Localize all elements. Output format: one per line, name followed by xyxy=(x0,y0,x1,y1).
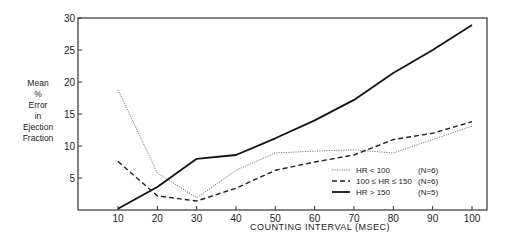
y-tick-label: 10 xyxy=(64,141,76,152)
y-tick-label: 25 xyxy=(64,45,76,56)
y-tick-label: 5 xyxy=(69,173,75,184)
legend-n-label: (N=6) xyxy=(418,166,439,175)
legend-label: HR > 150 xyxy=(356,188,391,197)
y-tick-label: 30 xyxy=(64,13,76,24)
line-chart: 51015202530 102030405060708090100 HR < 1… xyxy=(0,0,512,241)
y-tick-label: 20 xyxy=(64,77,76,88)
legend-n-label: (N=6) xyxy=(418,177,439,186)
legend-n-label: (N=5) xyxy=(418,188,439,197)
x-tick-label: 20 xyxy=(152,213,164,224)
y-axis-ticks: 51015202530 xyxy=(64,13,82,184)
legend: HR < 100(N=6)100 ≤ HR ≤ 150(N=6)HR > 150… xyxy=(332,166,439,197)
y-tick-label: 15 xyxy=(64,109,76,120)
legend-label: HR < 100 xyxy=(356,166,391,175)
x-tick-label: 10 xyxy=(112,213,124,224)
x-tick-label: 100 xyxy=(464,213,481,224)
x-axis-label: COUNTING INTERVAL (MSEC) xyxy=(200,222,440,232)
legend-label: 100 ≤ HR ≤ 150 xyxy=(356,177,412,186)
